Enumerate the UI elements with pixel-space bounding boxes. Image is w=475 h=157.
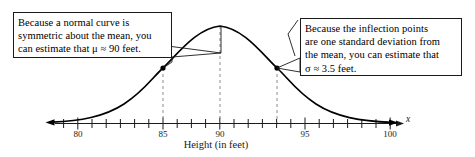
x-axis-variable-label: x — [406, 114, 410, 124]
axis-tick-label-80: 80 — [66, 129, 90, 139]
sigma-callout: Because the inflection points are one st… — [300, 18, 462, 76]
sigma-leader-line — [277, 20, 300, 72]
axis-tick-label-95: 95 — [293, 129, 317, 139]
sigma-callout-line-2: are one standard deviation from — [305, 35, 457, 48]
x-axis-title: Height (in feet) — [146, 139, 286, 150]
mean-callout-line-2: symmetric about the mean, you — [18, 29, 167, 42]
sigma-callout-line-4: σ ≈ 3.5 feet. — [305, 62, 457, 75]
sigma-callout-line-1: Because the inflection points — [305, 22, 457, 35]
axis-tick-label-90: 90 — [208, 129, 232, 139]
axis-tick-label-85: 85 — [151, 129, 175, 139]
sigma-callout-line-3: the mean, you can estimate that — [305, 48, 457, 61]
dashed-guides — [163, 26, 277, 123]
mean-callout-line-1: Because a normal curve is — [18, 16, 167, 29]
mean-callout-line-3: can estimate that μ ≈ 90 feet. — [18, 42, 167, 55]
mean-callout: Because a normal curve is symmetric abou… — [13, 12, 172, 58]
x-axis — [55, 121, 404, 127]
axis-tick-label-100: 100 — [378, 129, 402, 139]
